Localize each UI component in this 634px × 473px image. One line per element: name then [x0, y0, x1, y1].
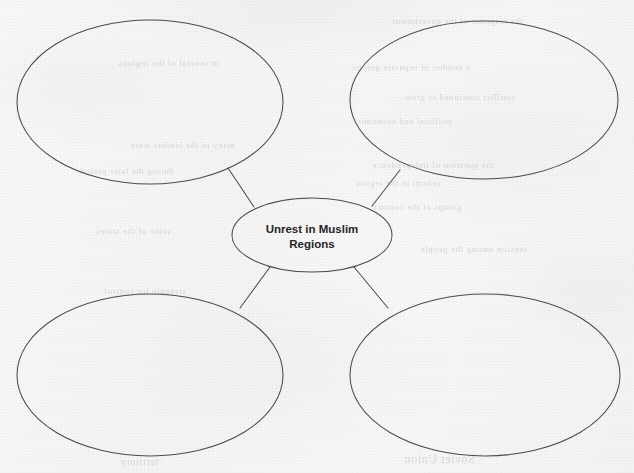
branch-node-ellipse-top-right[interactable] — [350, 21, 618, 179]
connector-center-to-bottom-right — [354, 267, 388, 308]
concept-map-diagram: Unrest in Muslim Regions — [0, 0, 634, 473]
connector-center-to-top-right — [372, 170, 400, 206]
branch-node-ellipse-bottom-left[interactable] — [17, 294, 283, 456]
connector-center-to-top-left — [228, 168, 254, 207]
center-node[interactable]: Unrest in Muslim Regions — [232, 198, 392, 272]
center-node-ellipse[interactable] — [232, 198, 392, 272]
center-node-label-line2: Regions — [289, 238, 334, 250]
connector-center-to-bottom-left — [240, 267, 270, 308]
worksheet-page: the response of the governmentin several… — [0, 0, 634, 473]
center-node-label-line1: Unrest in Muslim — [266, 223, 359, 235]
branch-node-ellipse-top-left[interactable] — [17, 20, 283, 184]
branch-node-ellipse-bottom-right[interactable] — [350, 294, 620, 456]
